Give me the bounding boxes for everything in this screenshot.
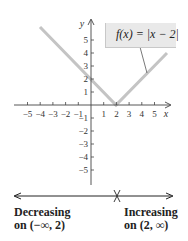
svg-text:4: 4 [140,109,145,119]
svg-text:−2: −2 [78,126,88,136]
svg-text:4: 4 [84,48,89,58]
svg-text:x: x [163,108,169,119]
function-label: f(x) = |x − 2| [116,27,179,42]
increasing-label-line2: on (2, ∞) [124,219,178,232]
decreasing-interval-label: Decreasing on (−∞, 2) [14,206,70,232]
svg-text:−2: −2 [61,109,71,119]
svg-text:−1: −1 [78,113,88,123]
increasing-interval-label: Increasing on (2, ∞) [124,206,178,232]
svg-text:2: 2 [84,74,89,84]
svg-text:−5: −5 [23,109,33,119]
svg-text:−4: −4 [35,109,45,119]
label-leader-line [140,47,147,73]
svg-text:−3: −3 [78,139,88,149]
x-tick-labels: −5 −4 −3 −2 −1 1 2 3 4 5 x [23,108,169,119]
svg-text:y: y [79,18,85,29]
decreasing-label-line2: on (−∞, 2) [14,219,70,232]
y-tick-labels: y 5 4 3 2 1 −1 −2 −3 −4 −5 [78,18,88,175]
svg-text:2: 2 [114,109,119,119]
svg-text:−3: −3 [48,109,58,119]
svg-text:−4: −4 [78,152,88,162]
svg-text:5: 5 [152,109,157,119]
svg-text:−5: −5 [78,165,88,175]
svg-text:5: 5 [84,35,89,45]
svg-text:1: 1 [101,109,106,119]
svg-text:3: 3 [84,61,89,71]
svg-text:3: 3 [127,109,132,119]
svg-text:1: 1 [84,87,89,97]
